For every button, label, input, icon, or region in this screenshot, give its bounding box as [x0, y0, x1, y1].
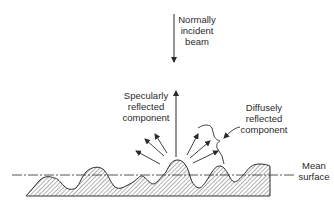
specular-label: Specularly reflected component [120, 90, 172, 123]
diffuse-line-2: reflected [238, 113, 290, 124]
reflection-diagram: Normally incident beam Specularly reflec… [0, 0, 334, 204]
diffuse-label: Diffusely reflected component [238, 102, 290, 135]
diffuse-line-1: Diffusely [238, 102, 290, 113]
specular-line-2: reflected [120, 101, 172, 112]
diffuse-brace [198, 125, 224, 164]
mean-line-2: surface [296, 171, 332, 182]
incident-line-2: incident [176, 25, 218, 36]
incident-beam-label: Normally incident beam [176, 14, 218, 47]
mean-surface-label: Mean surface [296, 160, 332, 182]
diffuse-arrows [136, 134, 218, 164]
diffuse-line-3: component [238, 124, 290, 135]
incident-line-1: Normally [176, 14, 218, 25]
specular-line-3: component [120, 112, 172, 123]
incident-line-3: beam [176, 36, 218, 47]
mean-line-1: Mean [296, 160, 332, 171]
specular-line-1: Specularly [120, 90, 172, 101]
rough-surface [26, 160, 270, 196]
